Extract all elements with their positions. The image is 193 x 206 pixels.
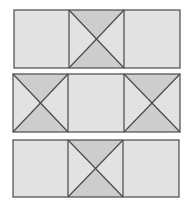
tile-diagram [0, 0, 193, 206]
plain-tile [68, 74, 124, 132]
plain-tile [14, 10, 69, 68]
crossed-tile [68, 140, 123, 197]
plain-tile [123, 140, 179, 197]
plain-tile [13, 140, 68, 197]
tile-row-1 [14, 10, 180, 68]
plain-tile [124, 10, 180, 68]
tile-rows [13, 10, 180, 197]
crossed-tile [69, 10, 124, 68]
tile-row-2 [13, 74, 180, 132]
crossed-tile [124, 74, 180, 132]
tile-row-3 [13, 140, 179, 197]
crossed-tile [13, 74, 68, 132]
